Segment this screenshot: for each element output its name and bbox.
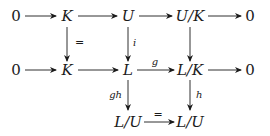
label-gh: gh [109,89,122,100]
node-L-over-K-r2: L/K [176,61,204,79]
label-h: h [196,89,202,100]
node-U-over-K-r1: U/K [176,7,206,25]
node-U-r1: U [122,7,136,25]
node-L-r2: L [122,61,133,79]
label-lu-eq: = [153,108,162,121]
label-i: i [133,37,136,48]
node-zero-r1-left: 0 [11,7,21,25]
node-L-over-U-right: L/U [175,113,205,131]
label-g: g [152,56,158,67]
node-K-r2: K [60,61,73,79]
node-K-r1: K [60,7,73,25]
node-zero-r1-right: 0 [245,7,255,25]
node-L-over-U-left: L/U [113,113,143,131]
commutative-diagram: 0 K U U/K 0 0 K L L/K 0 L/U L/U g = = i … [0,0,270,136]
node-zero-r2-left: 0 [11,61,21,79]
node-zero-r2-right: 0 [245,61,255,79]
label-k-eq: = [75,36,84,49]
